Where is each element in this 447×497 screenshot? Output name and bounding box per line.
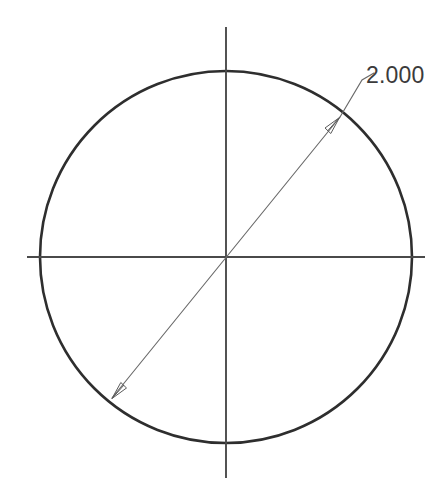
arrowhead-lower-left (112, 383, 127, 399)
arrowhead-upper-right (325, 118, 340, 134)
dimension-value-label[interactable]: 2.000 (366, 64, 425, 87)
cad-drawing-canvas[interactable]: 2.000 (0, 0, 447, 497)
